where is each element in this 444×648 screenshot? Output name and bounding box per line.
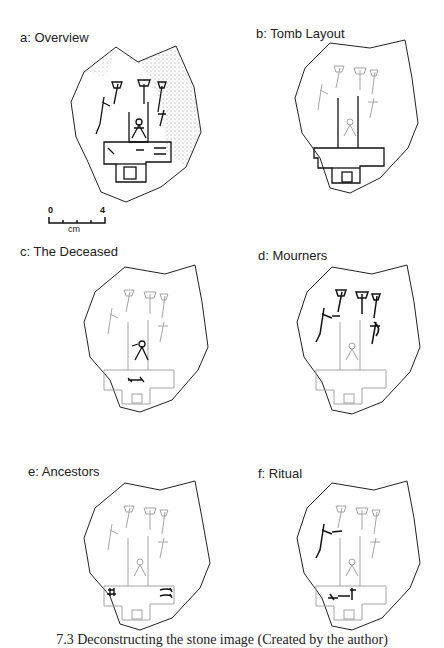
scale-bar: 0 4 cm — [46, 205, 108, 237]
panel-label-d: d: Mourners — [258, 248, 327, 263]
figure-caption: 7.3 Deconstructing the stone image (Crea… — [0, 632, 444, 648]
stone-drawing-mourners — [292, 262, 432, 420]
scale-ruler — [48, 216, 106, 224]
scale-unit-label: cm — [68, 224, 80, 234]
panel-label-e: e: Ancestors — [28, 464, 100, 479]
stone-drawing-ancestors — [80, 478, 220, 636]
stone-drawing-ritual — [292, 478, 432, 636]
stone-drawing-deceased — [80, 262, 220, 420]
panel-label-c: c: The Deceased — [20, 244, 118, 260]
scale-min-label: 0 — [48, 205, 53, 215]
scale-max-label: 4 — [100, 205, 105, 215]
stone-drawing-overview — [66, 42, 206, 207]
stone-drawing-tomb-layout — [290, 38, 430, 198]
